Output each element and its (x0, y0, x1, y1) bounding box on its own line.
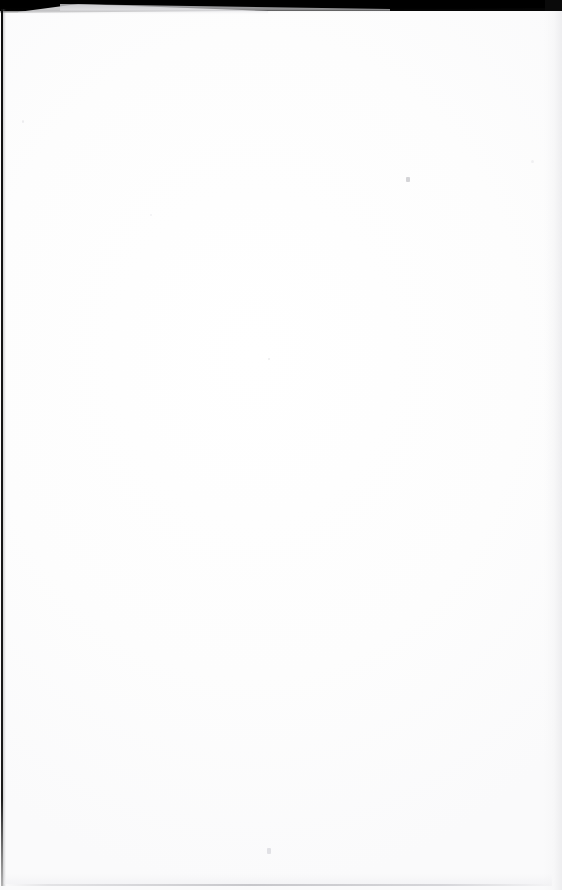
bottom-page-edge-line (4, 884, 552, 886)
scanned-page-canvas (0, 0, 562, 890)
scan-speck (531, 160, 534, 163)
bottom-page-edge-shadow (4, 874, 552, 884)
paper-surface (0, 0, 562, 890)
paper-illumination-gradient (0, 0, 562, 890)
scan-speck (22, 120, 24, 123)
scan-speck (268, 358, 270, 360)
scan-speck (406, 177, 410, 182)
scan-speck (267, 848, 271, 854)
right-margin-gap (544, 11, 562, 890)
left-page-edge-shadow (3, 9, 6, 886)
right-margin-gap-top (545, 0, 562, 11)
scan-speck (150, 214, 152, 216)
